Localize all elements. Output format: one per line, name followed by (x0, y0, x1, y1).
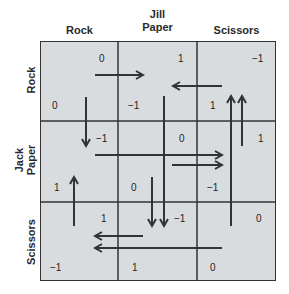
payoff-jill: −1 (174, 213, 185, 224)
payoff-jill: 0 (179, 133, 185, 144)
payoff-jill: 1 (258, 133, 264, 144)
payoff-jack: −1 (128, 100, 139, 111)
payoff-jill: −1 (252, 53, 263, 64)
payoff-jack: 0 (52, 100, 58, 111)
payoff-jill: 1 (101, 213, 107, 224)
payoff-jack: 0 (210, 262, 216, 273)
payoff-jill: −1 (96, 133, 107, 144)
payoff-jill: 0 (256, 213, 262, 224)
payoff-jack: 1 (132, 262, 138, 273)
best-response-arrows (0, 0, 289, 294)
payoff-jill: 0 (99, 53, 105, 64)
payoff-jill: 1 (178, 53, 184, 64)
payoff-jack: −1 (50, 262, 61, 273)
payoff-jack: 0 (131, 182, 137, 193)
payoff-jack: 1 (210, 100, 216, 111)
payoff-jack: 1 (54, 182, 60, 193)
payoff-jack: −1 (207, 182, 218, 193)
